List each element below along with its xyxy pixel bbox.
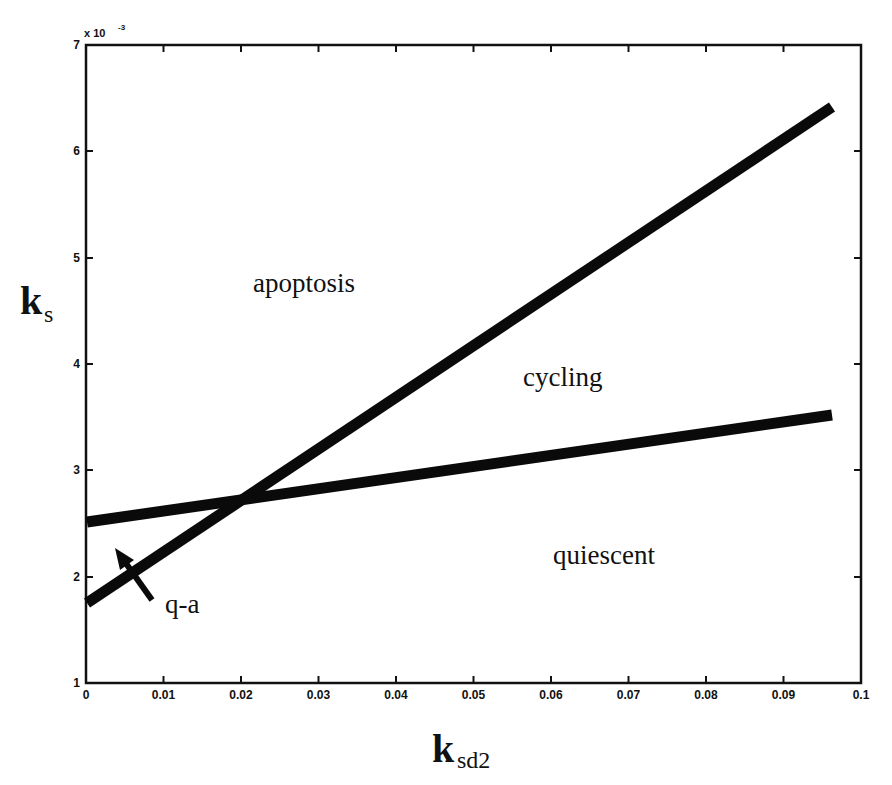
svg-text:x 10: x 10 <box>84 27 105 39</box>
svg-text:0.1: 0.1 <box>853 688 870 702</box>
x-axis-ticks <box>164 45 784 683</box>
region-label-cycling: cycling <box>523 362 602 392</box>
region-label-quiescent: quiescent <box>553 540 655 570</box>
x-tick-labels: 0 0.01 0.02 0.03 0.04 0.05 0.06 0.07 0.0… <box>83 688 870 702</box>
svg-text:k: k <box>20 278 43 323</box>
svg-text:0.06: 0.06 <box>539 688 563 702</box>
svg-text:sd2: sd2 <box>457 747 490 773</box>
svg-text:3: 3 <box>73 463 80 477</box>
shallow-boundary-line <box>87 415 832 522</box>
svg-text:1: 1 <box>73 676 80 690</box>
svg-text:0: 0 <box>83 688 90 702</box>
plot-frame <box>86 45 861 683</box>
steep-boundary-line <box>87 107 832 603</box>
svg-text:5: 5 <box>73 251 80 265</box>
svg-text:0.02: 0.02 <box>229 688 253 702</box>
q-a-arrow-icon <box>115 548 152 600</box>
y-axis-label: k s <box>20 278 53 327</box>
svg-text:7: 7 <box>73 38 80 52</box>
svg-text:0.07: 0.07 <box>617 688 641 702</box>
svg-text:4: 4 <box>73 357 80 371</box>
svg-text:-3: -3 <box>118 23 126 32</box>
region-label-q-a: q-a <box>165 589 199 619</box>
y-multiplier: x 10 -3 <box>84 23 126 39</box>
svg-text:6: 6 <box>73 144 80 158</box>
svg-text:0.05: 0.05 <box>462 688 486 702</box>
svg-text:0.01: 0.01 <box>152 688 176 702</box>
svg-text:0.09: 0.09 <box>772 688 796 702</box>
svg-text:s: s <box>44 301 53 327</box>
svg-text:0.08: 0.08 <box>694 688 718 702</box>
svg-text:k: k <box>432 726 455 771</box>
bifurcation-chart: 0 0.01 0.02 0.03 0.04 0.05 0.06 0.07 0.0… <box>0 0 892 785</box>
svg-text:0.03: 0.03 <box>307 688 331 702</box>
svg-text:2: 2 <box>73 570 80 584</box>
svg-text:0.04: 0.04 <box>384 688 408 702</box>
y-axis-ticks <box>86 151 861 577</box>
y-tick-labels: 1 2 3 4 5 6 7 <box>73 38 80 690</box>
region-label-apoptosis: apoptosis <box>253 268 355 298</box>
x-axis-label: k sd2 <box>432 726 490 773</box>
